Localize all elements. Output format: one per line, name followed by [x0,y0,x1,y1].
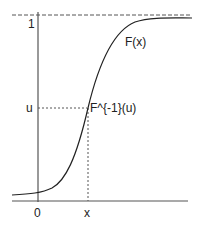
curve-label: F(x) [125,35,146,49]
x-label-zero: 0 [34,206,41,220]
cdf-diagram: 1 u 0 x F(x) F^{-1}(u) [0,0,197,226]
inverse-label: F^{-1}(u) [90,101,136,115]
y-label-one: 1 [28,17,35,31]
x-label-x: x [84,206,90,220]
y-label-u: u [26,101,33,115]
